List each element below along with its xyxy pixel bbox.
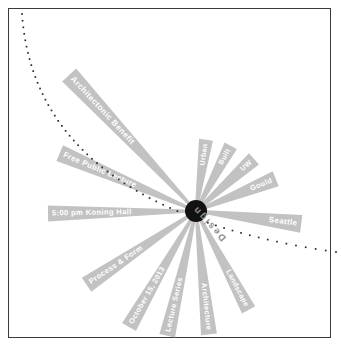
arc-dot (22, 26, 24, 28)
arc-dot (295, 245, 297, 247)
arc-dot (21, 13, 23, 15)
arc-dot (130, 186, 132, 188)
radial-diagram: Architectonic BenefitFree Public Lecture… (0, 0, 341, 348)
arc-dot (27, 52, 29, 54)
arc-dot (223, 227, 225, 229)
arc-dot (136, 190, 138, 192)
arc-dot (176, 210, 178, 212)
arc-dot (276, 241, 278, 243)
arc-dot (118, 179, 120, 181)
arc-dot (91, 158, 93, 160)
arc-dot (286, 243, 288, 245)
arc-dot (232, 230, 234, 232)
arc-dot (39, 88, 41, 90)
poster-canvas: Architectonic BenefitFree Public Lecture… (0, 0, 341, 348)
ray-architectonic-benefit-label: Architectonic Benefit (69, 75, 137, 147)
arc-dot (149, 197, 151, 199)
arc-dot (73, 140, 75, 142)
arc-dot (124, 183, 126, 185)
arc-dot (34, 76, 36, 78)
arc-dot (61, 125, 63, 127)
arc-dot (51, 110, 53, 112)
ray-free-public-lecture-label: Free Public Lecture (62, 150, 139, 189)
arc-dot (65, 130, 67, 132)
arc-dot (258, 237, 260, 239)
arc-dot (305, 246, 307, 248)
arc-dot (22, 20, 24, 22)
arc-dot (315, 248, 317, 250)
arc-dot (155, 201, 157, 203)
arc-dot (54, 115, 56, 117)
arc-dot (96, 162, 98, 164)
arc-dot (82, 149, 84, 151)
arc-dot (267, 239, 269, 241)
radial-diagram-svg: Architectonic BenefitFree Public Lecture… (0, 0, 341, 348)
arc-dot (45, 99, 47, 101)
arc-dot (112, 175, 114, 177)
arc-dot (32, 70, 34, 72)
arc-dot (77, 144, 79, 146)
arc-dot (29, 58, 31, 60)
arc-dot (26, 46, 28, 48)
ray-october-15-label: October 15, 2013 (127, 265, 167, 326)
arc-dot (142, 194, 144, 196)
ray-lecture-series-label: Lecture Series (163, 276, 184, 332)
arc-dot (30, 64, 32, 66)
arc-dot (86, 154, 88, 156)
arc-dot (335, 251, 337, 253)
arc-dot (240, 232, 242, 234)
arc-dot (37, 82, 39, 84)
arc-dot (249, 234, 251, 236)
arc-dot (162, 204, 164, 206)
arc-dot (69, 135, 71, 137)
arc-dot (57, 120, 59, 122)
ray-koning-hall-label: 5:00 pm Koning Hall (52, 207, 132, 217)
rays-group: Architectonic BenefitFree Public Lecture… (48, 68, 302, 337)
arc-dot (23, 33, 25, 35)
arc-dot (101, 167, 103, 169)
ray-process-form-label: Process & Form (87, 243, 144, 286)
arc-dot (169, 207, 171, 209)
arc-dot (107, 171, 109, 173)
arc-dot (42, 93, 44, 95)
arc-dot (24, 39, 26, 41)
arc-dot (325, 250, 327, 252)
arc-dot (48, 104, 50, 106)
